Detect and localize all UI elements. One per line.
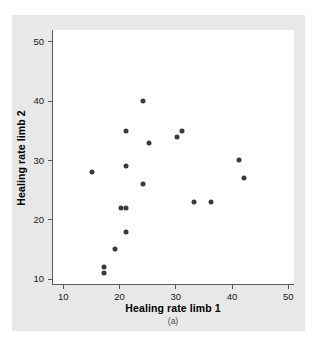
y-axis-tick-label: 30 xyxy=(33,156,48,166)
scatter-points-layer xyxy=(53,30,294,284)
data-point xyxy=(174,134,179,139)
data-point xyxy=(101,265,106,270)
x-axis-title: Healing rate limb 1 xyxy=(52,302,294,314)
figure-caption: (a) xyxy=(52,316,294,326)
y-axis-tick-mark xyxy=(48,160,52,161)
data-point xyxy=(141,182,146,187)
data-point xyxy=(141,99,146,104)
x-axis-tick-label: 10 xyxy=(58,289,69,302)
scatter-plot-figure: Healing rate limb 2 1020304050 102030405… xyxy=(0,0,317,346)
y-axis-tick-label: 50 xyxy=(33,37,48,47)
x-axis-tick-label: 50 xyxy=(283,289,294,302)
y-axis-tick-label: 20 xyxy=(33,215,48,225)
x-axis-tick-label: 40 xyxy=(227,289,238,302)
data-point xyxy=(208,199,213,204)
data-point xyxy=(90,170,95,175)
data-point xyxy=(146,140,151,145)
y-axis-tick-mark xyxy=(48,101,52,102)
x-axis-tick-label: 20 xyxy=(114,289,125,302)
data-point xyxy=(191,199,196,204)
y-axis-title: Healing rate limb 2 xyxy=(14,30,28,285)
y-axis-tick-label: 40 xyxy=(33,96,48,106)
data-point xyxy=(112,247,117,252)
x-axis-tick-label: 30 xyxy=(171,289,182,302)
y-axis-title-text: Healing rate limb 2 xyxy=(15,110,27,205)
data-point xyxy=(180,128,185,133)
data-point xyxy=(124,128,129,133)
y-axis-tick-mark xyxy=(48,219,52,220)
y-axis-tick-mark xyxy=(48,279,52,280)
data-point xyxy=(236,158,241,163)
data-point xyxy=(242,176,247,181)
data-point xyxy=(118,205,123,210)
plot-area xyxy=(52,30,294,285)
data-point xyxy=(124,164,129,169)
data-point xyxy=(124,205,129,210)
y-axis-tick-label: 10 xyxy=(33,274,48,284)
y-axis-tick-mark xyxy=(48,41,52,42)
data-point xyxy=(101,271,106,276)
data-point xyxy=(124,229,129,234)
